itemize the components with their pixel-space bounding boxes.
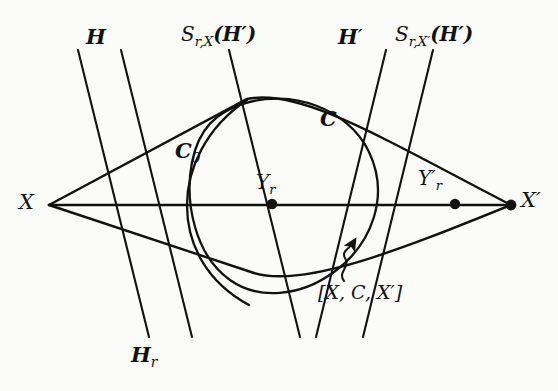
label-X-prime: X′ [521,190,541,211]
label-Y-r-subscript: r [269,182,275,197]
label-bracket-text: [X, C, X′] [318,281,402,303]
label-H-prime-glyph: H [338,24,358,49]
label-C: C [320,108,337,130]
label-H-r-base: H [131,342,151,367]
label-bracket-interval: [X, C, X′] [318,283,402,302]
label-C-zero-subscript: 0 [192,150,201,166]
label-Y-r-prime-subscript: r [436,178,442,193]
label-S-r-X-argument: (H′) [213,22,256,46]
diagram-svg [0,0,558,391]
point-Y-r-dot [267,199,277,209]
label-C-glyph: C [320,106,337,131]
label-S-r-X-base: S [181,22,195,46]
label-Y-r-prime-base: Y [418,166,431,190]
line-H [121,50,192,337]
label-Y-r: Yr [256,172,276,196]
point-Y-r-prime-dot [450,199,460,209]
label-S-r-X-prime-base: S [395,22,409,46]
figure-canvas: H Sr,X(H′) H′ Sr,X′(H′) C0 C Yr Y′r X X′… [0,0,558,391]
label-X-glyph: X [19,190,34,214]
label-H-prime: H′ [338,26,363,48]
label-S-r-X-prime: Sr,X′(H′) [395,24,473,48]
label-Y-r-base: Y [256,170,269,194]
point-X-prime-dot [506,200,517,211]
label-S-r-X-subscript: r,X [195,34,213,49]
label-H-r-subscript: r [151,354,158,370]
label-X-prime-mark: ′ [536,188,541,212]
label-S-r-X: Sr,X(H′) [181,24,256,48]
label-H-prime-mark: ′ [358,25,363,49]
label-C-zero-base: C [175,138,192,163]
annotation-arrow-curve [342,243,353,281]
label-X: X [19,192,34,213]
label-S-r-X-prime-argument: (H′) [430,22,473,46]
arc-C-zero [187,100,249,305]
label-H-glyph: H [86,24,106,49]
label-H: H [86,26,106,48]
line-H-r [78,50,149,337]
label-H-r: Hr [131,344,157,370]
label-C-zero: C0 [175,140,201,166]
label-Y-r-prime: Y′r [418,168,442,192]
label-X-prime-glyph: X [521,188,536,212]
label-S-r-X-prime-subscript: r,X′ [409,34,430,49]
